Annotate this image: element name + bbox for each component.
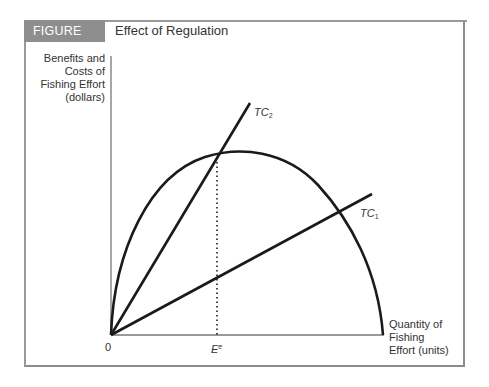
x-axis-label-line: Fishing: [389, 331, 449, 344]
tc1-label-sub: 1: [375, 213, 379, 220]
tc2-label-text: TC: [254, 106, 269, 118]
x-axis-label-line: Quantity of: [389, 318, 449, 331]
tc1-label: TC1: [360, 207, 379, 223]
origin-tick-label: 0: [105, 341, 111, 353]
x-axis-label: Quantity of Fishing Effort (units): [389, 318, 449, 357]
total-benefits-curve: [111, 152, 383, 335]
ee-tick-label: Ee: [211, 341, 222, 355]
ee-label-sup: e: [218, 343, 222, 350]
tc2-label: TC2: [254, 106, 273, 122]
tc2-line: [111, 103, 250, 335]
x-axis-label-line: Effort (units): [389, 344, 449, 357]
tc1-line: [111, 194, 372, 335]
tc1-label-text: TC: [360, 207, 375, 219]
tc2-label-sub: 2: [269, 112, 273, 119]
